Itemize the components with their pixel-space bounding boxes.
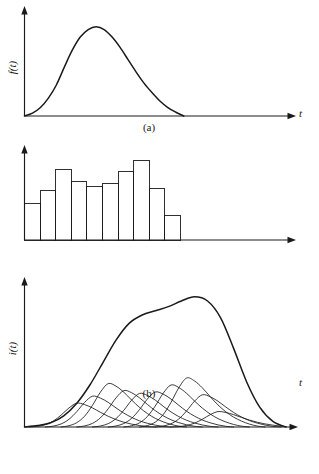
histogram-bar [149, 188, 165, 240]
y-axis-label-a: f(t) [7, 51, 18, 85]
panel-b-input-histogram: i(t) t (b) [0, 145, 319, 255]
y-axis-arrow-a [21, 6, 27, 15]
histogram-bar [118, 171, 134, 240]
histogram-bar [56, 169, 72, 240]
histogram-bar [87, 187, 103, 240]
x-axis-label-a: t [299, 108, 302, 119]
figure-root: f(t) t (a) i(t) t (b) Q(t) t (c) [0, 0, 319, 474]
response-curve [25, 27, 184, 116]
histogram-bar [40, 191, 56, 240]
y-axis-arrow-c [21, 277, 27, 286]
histogram-bar [25, 203, 41, 240]
component-response-curve [61, 383, 187, 427]
panel-c-plot [0, 255, 319, 474]
panel-b-plot [0, 145, 319, 255]
component-response-curve [108, 392, 234, 427]
histogram-bar [103, 183, 119, 240]
panel-a-response-function: f(t) t (a) [0, 0, 319, 145]
histogram-bars [25, 160, 181, 240]
histogram-bar [134, 160, 150, 240]
histogram-bar [165, 216, 181, 240]
panel-caption-a: (a) [129, 122, 169, 133]
histogram-bar [71, 182, 87, 240]
total-hydrograph-curve [25, 297, 287, 427]
y-axis-arrow-b [21, 145, 27, 154]
panel-c-output-hydrograph: Q(t) t (c) [0, 255, 319, 474]
component-response-curve [45, 396, 171, 427]
x-axis-arrow-c [290, 424, 299, 430]
x-axis-arrow-b [288, 237, 297, 243]
x-axis-arrow-a [288, 113, 297, 119]
